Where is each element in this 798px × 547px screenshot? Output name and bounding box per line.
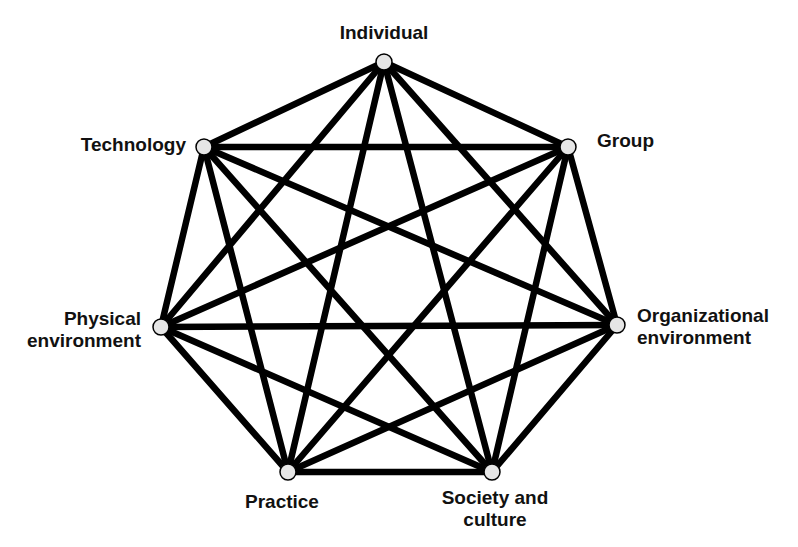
edge-group-practice (288, 147, 568, 472)
label-individual: Individual (334, 22, 434, 44)
label-line: Individual (334, 22, 434, 44)
label-line: environment (637, 327, 769, 349)
label-society-and-culture: Society and culture (420, 487, 570, 531)
edge-individual-technology (204, 62, 384, 147)
edge-group-physical-environment (161, 147, 568, 327)
label-group: Group (597, 130, 654, 152)
node-organizational-environment (609, 317, 625, 333)
label-line: Organizational (637, 305, 769, 327)
label-line: Practice (245, 491, 319, 513)
node-group (560, 139, 576, 155)
label-line: Technology (81, 134, 186, 156)
node-individual (376, 54, 392, 70)
node-physical-environment (153, 319, 169, 335)
edges-group (161, 62, 617, 472)
edge-individual-group (384, 62, 568, 147)
node-practice (280, 464, 296, 480)
label-line: Society and (420, 487, 570, 509)
node-society-and-culture (484, 464, 500, 480)
edge-organizational-environment-practice (288, 325, 617, 472)
label-physical-environment: Physical environment (27, 308, 141, 352)
label-line: environment (27, 330, 141, 352)
node-technology (196, 139, 212, 155)
label-practice: Practice (245, 491, 319, 513)
label-line: Physical (27, 308, 141, 330)
label-line: Group (597, 130, 654, 152)
label-line: culture (420, 509, 570, 531)
label-organizational-environment: Organizational environment (637, 305, 769, 349)
label-technology: Technology (81, 134, 186, 156)
edge-organizational-environment-physical-environment (161, 325, 617, 327)
nodes-group (153, 54, 625, 480)
complete-graph-diagram (0, 0, 798, 547)
